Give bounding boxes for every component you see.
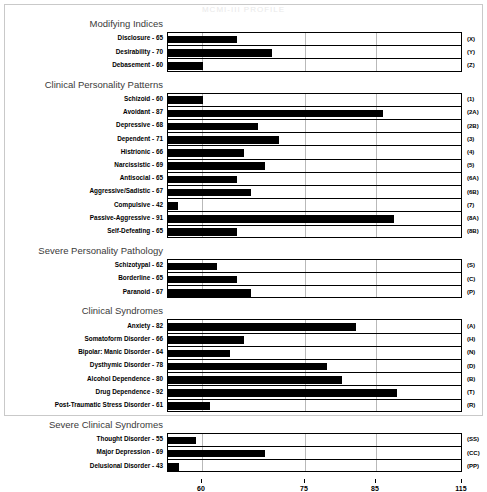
x-tick-75 [304,479,305,483]
scale-code: (PP) [467,463,479,469]
bar-label: Thought Disorder - 55 [5,436,163,442]
x-tick-115 [461,479,462,483]
gridline-85 [376,434,377,472]
x-tick-label: 75 [300,485,308,492]
bar [168,437,196,445]
section-plot-box [167,433,462,473]
gridline-75 [305,434,306,472]
x-tick-label: 60 [197,485,205,492]
section-heading: Severe Clinical Syndromes [5,419,163,430]
bar [168,450,265,458]
x-tick-60 [201,479,202,483]
x-tick-85 [375,479,376,483]
scale-code: (SS) [467,436,479,442]
bar-label: Delusional Disorder - 43 [5,463,163,469]
bar [168,463,179,471]
scale-code: (CC) [467,450,480,456]
bar-label: Major Depression - 69 [5,449,163,455]
chart-figure: MCMI-III PROFILE Modifying IndicesDisclo… [4,4,483,416]
row-separator [168,459,461,460]
x-tick-label: 115 [455,485,466,492]
row-separator [168,446,461,447]
x-axis: 607585115 [5,5,482,415]
x-tick-label: 85 [371,485,379,492]
